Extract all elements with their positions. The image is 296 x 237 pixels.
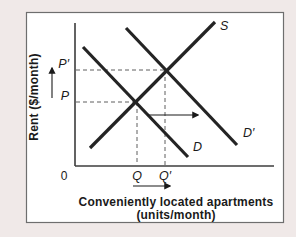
textbook-figure: SDD′PQP′Q′0Rent ($/month)Conveniently lo… — [0, 0, 296, 237]
supply-label: S — [220, 19, 229, 33]
price-label-initial: P — [61, 89, 70, 103]
quantity-label-initial: Q — [132, 169, 142, 183]
origin-label: 0 — [61, 169, 68, 183]
price-label-new: P′ — [58, 57, 69, 71]
quantity-label-new: Q′ — [159, 169, 172, 183]
panel — [27, 13, 284, 223]
demand-initial-label: D — [193, 140, 202, 154]
y-axis-label: Rent ($/month) — [27, 53, 41, 140]
x-axis-label-line2: (units/month) — [136, 208, 215, 222]
x-axis-label-line1: Conveniently located apartments — [79, 195, 274, 209]
supply-demand-chart: SDD′PQP′Q′0Rent ($/month)Conveniently lo… — [0, 0, 296, 237]
demand-shifted-label: D′ — [243, 126, 255, 140]
